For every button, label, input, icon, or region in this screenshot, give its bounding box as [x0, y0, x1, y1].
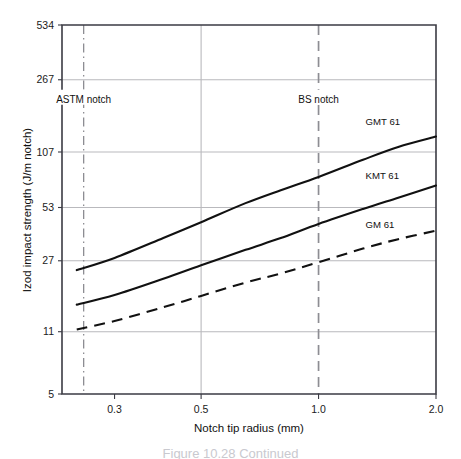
series-labels-group: GMT 61KMT 61GM 61	[363, 116, 411, 231]
x-tick-label: 1.0	[311, 403, 326, 415]
curve-kmt-61	[77, 186, 436, 305]
izod-impact-strength-chart: 5112753107267534 0.30.51.02.0 GMT 61KMT …	[0, 0, 461, 459]
x-tick-label: 0.3	[107, 403, 122, 415]
annotation-label-astm-notch: ASTM notch	[56, 94, 111, 105]
x-axis-ticks-group: 0.30.51.02.0	[107, 394, 443, 415]
y-tick-label: 267	[36, 73, 54, 85]
x-tick-label: 0.5	[194, 403, 209, 415]
y-tick-label: 11	[43, 325, 54, 337]
x-axis-title: Notch tip radius (mm)	[194, 422, 304, 434]
y-tick-label: 53	[42, 201, 54, 213]
y-axis-title: Izod impact strength (J/m notch)	[21, 128, 33, 292]
figure-caption: Figure 10.28 Continued	[0, 446, 461, 459]
y-tick-label: 107	[36, 146, 54, 158]
data-curves-group	[77, 137, 436, 330]
series-label-gmt-61: GMT 61	[366, 116, 400, 127]
y-axis-ticks-group: 5112753107267534	[36, 19, 62, 400]
gridlines-group	[62, 25, 436, 394]
series-label-kmt-61: KMT 61	[366, 170, 399, 181]
annotation-label-bs-notch: BS notch	[298, 94, 339, 105]
series-label-gm-61: GM 61	[366, 219, 395, 230]
x-tick-label: 2.0	[429, 403, 444, 415]
y-tick-label: 5	[48, 388, 54, 400]
figure-container: 5112753107267534 0.30.51.02.0 GMT 61KMT …	[0, 0, 461, 459]
plot-frame	[62, 25, 436, 394]
y-tick-label: 27	[42, 254, 54, 266]
y-tick-label: 534	[36, 19, 54, 31]
